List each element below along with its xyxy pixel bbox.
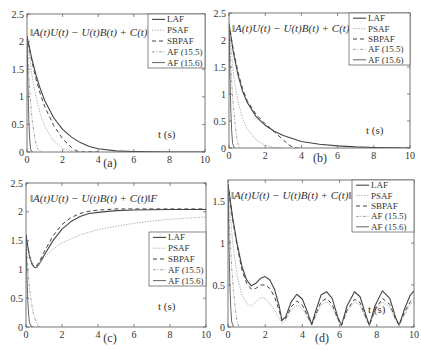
norm-annotation: ‖A(t)U(t) − U(t)B(t) + C(t)‖F [231, 189, 359, 202]
x-tick-label: 0 [227, 150, 232, 161]
panel-c: 024681000.511.522.5‖A(t)U(t) − U(t)B(t) … [11, 178, 212, 346]
x-tick-label: 2 [263, 150, 268, 161]
x-tick-label: 10 [409, 329, 419, 340]
legend: LAFPSAFSBPAFAF (15.5)AF (15.6) [352, 180, 414, 232]
x-tick-label: 4 [96, 154, 101, 165]
legend-label: LAF [371, 180, 388, 190]
x-tick-label: 2 [60, 329, 65, 340]
x-tick-label: 6 [335, 150, 340, 161]
y-tick-label: 1 [220, 238, 225, 249]
legend-label: AF (15.5) [168, 265, 204, 275]
y-tick-label: 0 [220, 322, 225, 333]
x-tick-label: 6 [132, 329, 137, 340]
legend-label: AF (15.5) [371, 211, 407, 221]
series-sbpaf [229, 24, 301, 148]
series-psaf [27, 36, 98, 152]
panel-caption: (b) [313, 151, 327, 165]
x-tick-label: 2 [263, 329, 268, 340]
x-tick-label: 0 [226, 329, 231, 340]
legend-label: PSAF [371, 191, 393, 201]
x-tick-label: 10 [200, 154, 210, 165]
y-tick-label: 0 [19, 147, 24, 158]
legend-label: AF (15.5) [368, 44, 404, 54]
x-tick-label: 8 [371, 150, 376, 161]
norm-annotation: ‖A(t)U(t) − U(t)B(t) + C(t)‖F [30, 26, 158, 39]
y-tick-label: 0.5 [214, 116, 227, 127]
x-tick-label: 10 [405, 150, 415, 161]
y-tick-label: 1 [19, 91, 24, 102]
legend-label: AF (15.6) [167, 58, 203, 68]
x-axis-label: t (s) [158, 128, 176, 141]
y-tick-label: 1.5 [11, 235, 24, 246]
legend-label: SBPAF [368, 34, 395, 44]
panel-a: 024681000.511.522.5‖A(t)U(t) − U(t)B(t) … [12, 9, 211, 171]
y-tick-label: 1.5 [214, 62, 227, 73]
x-tick-label: 6 [337, 329, 342, 340]
legend: LAFPSAFSBPAFAF (15.5)AF (15.6) [149, 232, 206, 286]
x-tick-label: 10 [201, 329, 211, 340]
y-tick-label: 2 [18, 206, 23, 217]
x-axis-label: t (s) [368, 303, 386, 316]
figure: 024681000.511.522.5‖A(t)U(t) − U(t)B(t) … [0, 0, 421, 351]
y-tick-label: 1.5 [12, 64, 25, 75]
y-tick-label: 0.5 [213, 280, 226, 291]
x-tick-label: 4 [299, 150, 304, 161]
y-tick-label: 0.5 [12, 119, 25, 130]
x-tick-label: 0 [24, 329, 29, 340]
series-psaf [229, 24, 283, 148]
y-tick-label: 2.5 [214, 8, 227, 19]
y-tick-label: 2.5 [12, 9, 25, 20]
legend-label: LAF [167, 14, 184, 24]
legend-label: SBPAF [168, 254, 195, 264]
y-tick-label: 0 [221, 143, 226, 154]
legend-label: AF (15.5) [167, 47, 203, 57]
y-tick-label: 1 [18, 264, 23, 275]
legend-label: LAF [368, 13, 385, 23]
legend-label: PSAF [167, 25, 189, 35]
panel-caption: (c) [103, 331, 116, 345]
legend-label: AF (15.6) [368, 55, 404, 65]
x-tick-label: 4 [300, 329, 305, 340]
norm-annotation: ‖A(t)U(t) − U(t)B(t) + C(t)‖F [232, 22, 360, 35]
legend-label: SBPAF [371, 201, 398, 211]
panel-d: 024681000.511.5‖A(t)U(t) − U(t)B(t) + C(… [213, 180, 420, 345]
x-tick-label: 2 [60, 154, 65, 165]
panel-b: 024681000.511.522.5‖A(t)U(t) − U(t)B(t) … [214, 8, 416, 166]
legend-label: LAF [168, 232, 185, 242]
series-af-15-6 [26, 235, 33, 327]
legend: LAFPSAFSBPAFAF (15.5)AF (15.6) [148, 14, 205, 68]
x-axis-label: t (s) [366, 124, 384, 137]
y-tick-label: 2 [221, 35, 226, 46]
y-tick-label: 1.5 [213, 196, 226, 207]
x-tick-label: 0 [25, 154, 30, 165]
legend-label: SBPAF [167, 36, 194, 46]
y-tick-label: 0.5 [11, 293, 24, 304]
x-tick-label: 8 [167, 154, 172, 165]
legend-label: AF (15.6) [371, 222, 407, 232]
y-tick-label: 1 [221, 89, 226, 100]
legend-label: PSAF [368, 24, 390, 34]
legend-label: PSAF [168, 243, 190, 253]
x-tick-label: 6 [131, 154, 136, 165]
legend: LAFPSAFSBPAFAF (15.5)AF (15.6) [349, 13, 410, 65]
x-tick-label: 4 [96, 329, 101, 340]
panel-caption: (d) [315, 331, 329, 345]
series-sbpaf [27, 36, 98, 152]
x-tick-label: 8 [374, 329, 379, 340]
y-tick-label: 2.5 [11, 178, 24, 189]
y-tick-label: 2 [19, 36, 24, 47]
series-af-15-5 [228, 184, 239, 327]
x-tick-label: 8 [168, 329, 173, 340]
x-axis-label: t (s) [158, 300, 176, 313]
panel-caption: (a) [103, 156, 116, 170]
legend-label: AF (15.6) [168, 276, 204, 286]
y-tick-label: 0 [18, 322, 23, 333]
norm-annotation: ‖A(t)U(t) − U(t)B(t) + C(t)‖F [30, 192, 158, 205]
